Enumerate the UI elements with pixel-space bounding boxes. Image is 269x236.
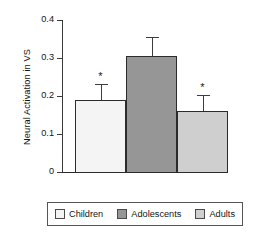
- significance-star: *: [196, 82, 210, 93]
- bar-adults: [177, 111, 228, 173]
- x-axis-baseline: [62, 172, 228, 173]
- error-bar-cap: [95, 84, 108, 85]
- legend-item-adults: Adults: [195, 209, 235, 219]
- error-bar-stem: [152, 37, 153, 56]
- legend-item-adolescents: Adolescents: [117, 209, 181, 219]
- bar-children: [75, 100, 126, 173]
- error-bar-stem: [101, 84, 102, 100]
- legend-swatch-icon: [117, 209, 127, 219]
- significance-star: *: [94, 71, 108, 82]
- legend-label: Adults: [209, 209, 235, 219]
- legend-swatch-icon: [55, 209, 65, 219]
- error-bar-stem: [203, 95, 204, 111]
- bar-adolescents: [126, 56, 177, 173]
- bar-chart-figure: Neural Activation in VS 0.40.30.20.10 **…: [0, 0, 269, 236]
- error-bar-cap: [197, 95, 210, 96]
- error-bar-cap: [146, 37, 159, 38]
- legend-label: Children: [69, 209, 103, 219]
- bar-series: **: [0, 0, 269, 196]
- legend-label: Adolescents: [131, 209, 181, 219]
- legend-swatch-icon: [195, 209, 205, 219]
- chart-legend: ChildrenAdolescentsAdults: [47, 202, 243, 226]
- plot-area: Neural Activation in VS 0.40.30.20.10 **: [0, 0, 269, 196]
- legend-item-children: Children: [55, 209, 103, 219]
